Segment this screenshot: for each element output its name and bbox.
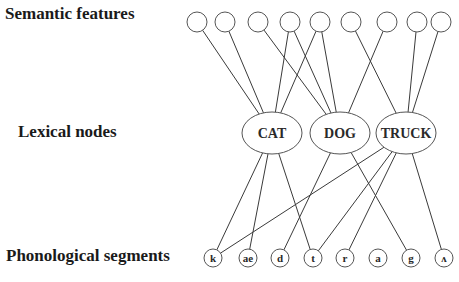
edge-dog-d	[284, 153, 331, 250]
semantic-feature-node	[377, 12, 397, 32]
phonological-segment-label: ʌ	[441, 252, 447, 264]
phonological-segment-7: ʌ	[435, 249, 453, 267]
phonological-segment-label: d	[277, 252, 283, 264]
phonological-segment-label: g	[408, 252, 414, 264]
lexical-node-label: TRUCK	[381, 126, 432, 141]
edge-s5-dog	[322, 32, 336, 112]
phonological-segment-label: k	[210, 252, 217, 264]
edge-s5-cat	[281, 31, 316, 113]
phonological-segment-label: t	[311, 252, 315, 264]
edge-s1-cat	[203, 30, 260, 114]
lexical-node-truck: TRUCK	[376, 112, 436, 154]
edge-s6-truck	[355, 31, 396, 113]
phonological-segment-label: ae	[243, 252, 254, 264]
phonological-segment-label: r	[343, 252, 348, 264]
edge-cat-t	[279, 153, 310, 249]
semantic-feature-node	[431, 12, 451, 32]
lexical-node-cat: CAT	[242, 112, 302, 154]
edge-cat-k	[217, 153, 263, 250]
edge-s9-truck	[412, 32, 438, 113]
edge-s3-dog	[264, 30, 326, 114]
edge-truck-ʌ	[412, 154, 441, 250]
edge-dog-g	[351, 153, 406, 251]
semantic-feature-node	[341, 12, 361, 32]
semantic-feature-node	[215, 12, 235, 32]
lexical-node-label: DOG	[324, 126, 356, 141]
edge-cat-ae	[250, 154, 268, 249]
semantic-feature-node	[248, 12, 268, 32]
edge-s7-dog	[349, 31, 384, 113]
phonological-segment-0: k	[204, 249, 222, 267]
edge-truck-k	[221, 147, 384, 253]
semantic-feature-node	[310, 12, 330, 32]
network-diagram: CATDOGTRUCKkaedtragʌ	[0, 0, 459, 282]
phonological-segment-5: a	[369, 249, 387, 267]
phonological-segment-3: t	[304, 249, 322, 267]
phonological-segment-label: a	[375, 252, 381, 264]
semantic-feature-node	[407, 12, 427, 32]
phonological-segment-6: g	[402, 249, 420, 267]
phonological-segment-2: d	[271, 249, 289, 267]
semantic-feature-node	[280, 12, 300, 32]
lexical-node-label: CAT	[258, 126, 287, 141]
edge-s4-dog	[294, 31, 331, 113]
phonological-segment-4: r	[336, 249, 354, 267]
semantic-feature-node	[187, 12, 207, 32]
edge-s2-cat	[229, 31, 264, 113]
lexical-node-dog: DOG	[310, 112, 370, 154]
phonological-segment-1: ae	[239, 249, 257, 267]
edge-truck-r	[349, 153, 396, 250]
edge-s8-truck	[408, 32, 416, 112]
